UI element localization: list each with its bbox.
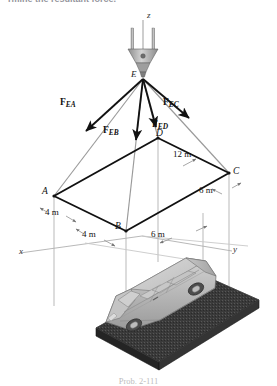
point-dot-B [124,229,127,232]
force-label-FEB-group: FEB [103,125,119,137]
dim-label-6m-right: 6 m [199,185,213,195]
force-arrow-FEB [136,79,143,140]
force-vectors [86,79,189,140]
force-label-FEA-group: FEA [60,97,76,109]
force-label-FEB-sub: EB [108,128,119,137]
point-labels: A B C D [41,128,240,231]
point-dot-A [52,194,55,197]
axis-x-line [20,236,142,253]
dim-label-4m-lower: 4 m [82,229,96,239]
dim-label-6m-bottom: 6 m [151,229,165,239]
point-dot-C [227,171,230,174]
point-label-D: D [155,128,163,138]
dim-leader-4m-upper-b [66,216,76,222]
point-label-A: A [41,186,48,196]
dim-leader-6m-right-b [232,183,241,188]
point-label-B: B [115,221,121,231]
force-arrow-FEA [86,79,143,131]
force-label-FEC-group: FEC [163,97,179,109]
figure-caption: Prob. 2-111 [0,376,277,386]
axis-z-label: z [146,10,151,20]
dim-leader-6m-right-a [212,189,222,194]
statics-figure: z FEA FEB FEC FED [0,0,277,386]
point-label-E: E [130,69,137,79]
dim-leader-6m-bottom-b [196,226,207,231]
cable-EA [54,79,143,196]
dimension-labels: 12 m 6 m 6 m 4 m 4 m [45,149,213,239]
axis-y-label: y [232,244,237,254]
axis-x-label: x [18,246,23,256]
point-label-C: C [233,166,240,176]
dimension-lines [40,159,241,246]
dim-leader-12m [183,159,196,166]
force-label-FEC-sub: EC [168,100,179,109]
dim-label-12m: 12 m [173,149,191,159]
dim-label-4m-upper: 4 m [45,207,59,217]
force-label-FEA-sub: EA [65,100,76,109]
